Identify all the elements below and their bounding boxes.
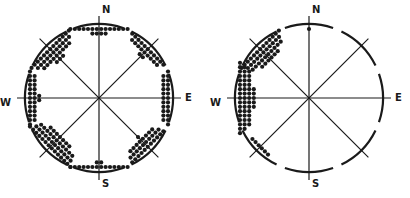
- data-dot: [238, 74, 242, 78]
- spokes: [17, 16, 181, 180]
- dot-clusters: [238, 27, 311, 157]
- data-dot: [45, 129, 49, 133]
- data-dot: [82, 165, 86, 169]
- data-dot: [238, 100, 242, 104]
- data-dot: [108, 165, 112, 169]
- data-dot: [44, 134, 48, 138]
- data-dot: [133, 35, 137, 39]
- data-dot: [263, 62, 267, 66]
- data-dot: [33, 74, 37, 78]
- data-dot: [82, 27, 86, 31]
- data-dot: [28, 70, 32, 74]
- data-dot: [143, 44, 147, 48]
- data-dot: [33, 83, 37, 87]
- data-dot: [42, 60, 46, 64]
- data-dot: [276, 43, 280, 47]
- data-dot: [31, 128, 35, 132]
- data-dot: [146, 47, 150, 51]
- data-dot: [250, 137, 254, 141]
- data-dot: [128, 149, 132, 153]
- data-dot: [36, 60, 40, 64]
- data-dot: [166, 87, 170, 91]
- label-e: E: [395, 92, 402, 103]
- data-dot: [28, 83, 32, 87]
- data-dot: [39, 123, 43, 127]
- data-dot: [64, 44, 68, 48]
- data-dot: [149, 142, 153, 146]
- data-dot: [108, 27, 112, 31]
- data-dot: [29, 66, 33, 70]
- data-dot: [57, 38, 61, 42]
- data-dot: [56, 146, 60, 150]
- data-dot: [166, 122, 170, 126]
- data-dot: [61, 41, 65, 45]
- data-dot: [68, 159, 72, 163]
- data-dot: [45, 57, 49, 61]
- data-dot: [271, 35, 275, 39]
- data-dot: [90, 165, 94, 169]
- data-dot: [117, 27, 121, 31]
- data-dot: [70, 154, 74, 158]
- data-dot: [130, 32, 134, 36]
- data-dot: [238, 65, 242, 69]
- data-dot: [238, 105, 242, 109]
- data-dot: [166, 70, 170, 74]
- data-dot: [161, 114, 165, 118]
- data-dot: [139, 41, 143, 45]
- data-dot: [166, 118, 170, 122]
- data-dot: [33, 63, 37, 67]
- data-dot: [112, 27, 116, 31]
- data-dot: [58, 135, 62, 139]
- data-dot: [252, 92, 256, 96]
- data-dot: [166, 109, 170, 113]
- data-dot: [264, 47, 268, 51]
- data-dot: [28, 118, 32, 122]
- data-dot: [128, 155, 132, 159]
- data-dot: [104, 27, 108, 31]
- data-dot: [243, 78, 247, 82]
- data-dot: [77, 27, 81, 31]
- data-dot: [238, 127, 242, 131]
- data-dot: [238, 114, 242, 118]
- data-dot: [166, 92, 170, 96]
- data-dot: [166, 74, 170, 78]
- data-dot: [257, 61, 261, 65]
- data-dot: [36, 66, 40, 70]
- label-e: E: [185, 92, 192, 103]
- data-dot: [28, 92, 32, 96]
- data-dot: [144, 140, 148, 144]
- data-dot: [55, 60, 59, 64]
- data-dot: [50, 146, 54, 150]
- data-dot: [117, 165, 121, 169]
- data-dot: [59, 156, 63, 160]
- spokes: [227, 16, 391, 180]
- data-dot: [104, 31, 108, 35]
- data-dot: [243, 127, 247, 131]
- data-dot: [266, 152, 270, 156]
- data-dot: [271, 41, 275, 45]
- data-dot: [104, 165, 108, 169]
- data-dot: [53, 143, 57, 147]
- data-dot: [166, 105, 170, 109]
- data-dot: [155, 56, 159, 60]
- data-dot: [132, 152, 136, 156]
- data-dot: [67, 144, 71, 148]
- data-dot: [51, 50, 55, 54]
- data-dot: [243, 87, 247, 91]
- data-dot: [243, 122, 247, 126]
- data-dot: [28, 109, 32, 113]
- data-dot: [33, 87, 37, 91]
- data-dot: [55, 138, 59, 142]
- data-dot: [252, 60, 256, 64]
- data-dot: [99, 27, 103, 31]
- data-dot: [243, 83, 247, 87]
- label-s: S: [312, 178, 319, 189]
- data-dot: [45, 63, 49, 67]
- left-rose: NSEW: [0, 4, 192, 189]
- data-dot: [95, 160, 99, 164]
- data-dot: [255, 50, 259, 54]
- data-dot: [34, 131, 38, 135]
- data-dot: [55, 132, 59, 136]
- data-dot: [56, 152, 60, 156]
- data-dot: [28, 96, 32, 100]
